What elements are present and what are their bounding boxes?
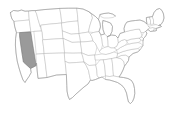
state-WA[interactable]	[11, 10, 30, 22]
state-CO[interactable]	[43, 39, 65, 54]
state-WY[interactable]	[41, 23, 63, 40]
state-TX[interactable]	[65, 62, 90, 100]
us-map-container: United States map	[0, 0, 180, 125]
states-layer[interactable]	[11, 8, 165, 103]
state-ND[interactable]	[60, 8, 78, 23]
state-IA[interactable]	[79, 32, 93, 42]
state-NM[interactable]	[44, 53, 66, 78]
us-map-svg[interactable]	[0, 0, 180, 125]
state-OK[interactable]	[65, 53, 84, 63]
state-OR[interactable]	[14, 20, 31, 33]
